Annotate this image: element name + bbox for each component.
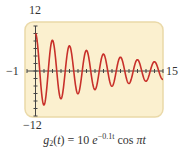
- x-max-label: 15: [166, 65, 178, 77]
- caption-trig: cos: [117, 133, 133, 147]
- x-min-label: −1: [6, 65, 19, 77]
- caption-arg: t: [57, 133, 60, 147]
- y-min-label: −12: [23, 119, 42, 131]
- chart-figure: 12 −12 −1 15 g2(t) = 10 e−0.1t cos πt: [0, 0, 189, 153]
- y-max-label: 12: [29, 4, 41, 16]
- caption-equals: = 10: [68, 133, 90, 147]
- function-caption: g2(t) = 10 e−0.1t cos πt: [0, 132, 189, 148]
- caption-subscript: 2: [49, 139, 53, 148]
- caption-exponent: −0.1t: [98, 132, 115, 141]
- caption-trig-arg: πt: [136, 133, 145, 147]
